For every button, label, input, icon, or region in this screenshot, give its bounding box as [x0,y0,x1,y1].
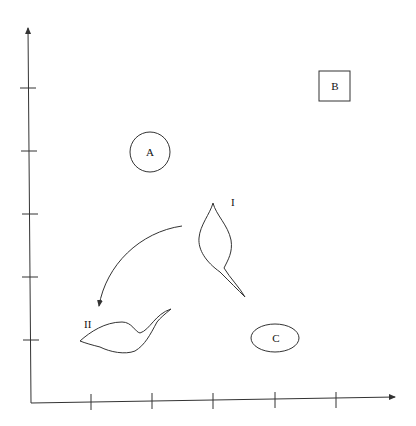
ellipse-c: C [251,324,299,352]
circle-a-label: A [146,146,154,158]
shape-two: II [80,309,171,353]
transition-arrow [99,226,182,306]
x-axis [31,392,395,410]
y-axis [20,28,39,403]
shape-two-label: II [84,318,92,330]
shape-one: I [199,196,245,297]
circle-a: A [130,132,170,172]
diagram-canvas: A B C I II [0,0,416,426]
square-b: B [319,71,350,101]
shape-one-label: I [231,196,235,208]
ellipse-c-label: C [272,332,279,344]
square-b-label: B [331,80,338,92]
